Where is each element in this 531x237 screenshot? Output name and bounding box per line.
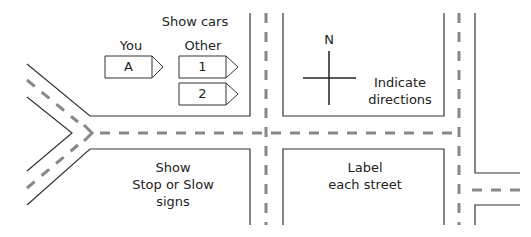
street-map-lines [0, 0, 531, 237]
directions-label-line2: directions [360, 92, 440, 108]
compass-north-label: N [321, 32, 337, 48]
car-you-a: A [105, 59, 152, 75]
lane-dash-upper-diagonal [27, 80, 78, 122]
block-right-edge [475, 13, 520, 173]
you-label: You [110, 38, 152, 54]
stop-slow-label-line2: Stop or Slow [128, 177, 218, 193]
label-streets-line2: each street [315, 177, 415, 193]
stop-slow-label-line1: Show [128, 160, 218, 176]
road-fork-edge [27, 97, 72, 171]
car-other-2: 2 [179, 86, 226, 102]
directions-label-line1: Indicate [360, 75, 440, 91]
label-streets-line1: Label [315, 160, 415, 176]
block-right-lower-edge [475, 205, 520, 225]
lane-fork-chevron [84, 125, 92, 141]
other-label: Other [180, 38, 226, 54]
street-map-diagram: Show cars You Other A 1 2 N Indicate dir… [0, 0, 531, 237]
car-other-1: 1 [179, 59, 226, 75]
stop-slow-label-line3: signs [128, 194, 218, 210]
show-cars-label: Show cars [140, 14, 250, 30]
